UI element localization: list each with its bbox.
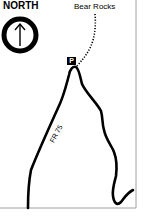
- road-fr75: [28, 67, 133, 208]
- parking-icon: P: [67, 57, 76, 65]
- north-arrow-icon: [4, 19, 36, 51]
- bear-rocks-label: Bear Rocks: [74, 2, 115, 11]
- north-label: NORTH: [3, 1, 39, 11]
- map-canvas: [0, 0, 144, 221]
- trail-map: NORTH Bear Rocks P FR 75: [0, 0, 144, 221]
- trail-path: [77, 14, 95, 66]
